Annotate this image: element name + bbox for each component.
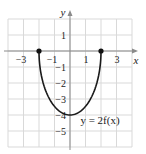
x-axis-arrow-icon (132, 49, 138, 54)
x-tick-label: 3 (115, 54, 120, 65)
x-tick-label: −3 (16, 54, 27, 65)
y-axis-arrow-icon (68, 10, 73, 16)
endpoint-left-dot (36, 48, 41, 53)
axes (4, 10, 138, 150)
y-tick-label: −1 (55, 62, 66, 73)
y-tick-label: 1 (61, 30, 66, 41)
x-tick-label: 1 (84, 54, 89, 65)
x-axis-label: x (133, 54, 139, 66)
y-tick-label: −5 (55, 126, 66, 137)
y-axis-label: y (60, 6, 66, 18)
equation-label: y = 2f(x) (80, 114, 120, 127)
graph: −3 −1 1 3 1 −1 −2 −3 −4 −5 x y y = 2f(x) (0, 0, 146, 154)
y-tick-label: −3 (55, 94, 66, 105)
y-tick-label: −2 (55, 78, 66, 89)
endpoint-right-dot (98, 48, 103, 53)
